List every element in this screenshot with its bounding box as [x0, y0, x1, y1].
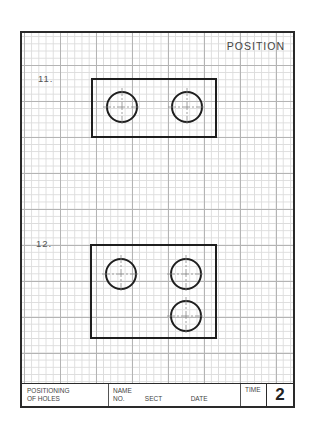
- time-cell: TIME: [241, 384, 267, 406]
- sheet-number: 2: [267, 384, 293, 406]
- name-cell: NAME NO. SECT DATE: [109, 384, 241, 406]
- name-label: NAME: [113, 387, 240, 395]
- subject-line-1: POSITIONING: [27, 387, 108, 395]
- no-label: NO.: [113, 395, 143, 403]
- time-label: TIME: [245, 386, 261, 393]
- sect-label: SECT: [145, 395, 189, 403]
- part-outline-12: [91, 245, 216, 338]
- drawing-canvas: [22, 33, 293, 385]
- subject-line-2: OF HOLES: [27, 395, 108, 403]
- drawing-sheet: POSITION 11. 12. POSITIONING OF HOLES NA…: [20, 31, 295, 408]
- subject-cell: POSITIONING OF HOLES: [22, 384, 109, 406]
- title-block: POSITIONING OF HOLES NAME NO. SECT DATE …: [22, 383, 293, 406]
- part-outline-11: [92, 79, 216, 137]
- date-label: DATE: [191, 395, 208, 403]
